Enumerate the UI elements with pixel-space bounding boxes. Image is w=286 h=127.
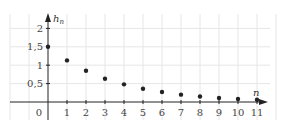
data-point <box>84 69 88 73</box>
x-axis-label: n <box>253 87 259 98</box>
x-tick-label: 7 <box>178 107 184 118</box>
data-point <box>65 58 69 62</box>
y-tick-label: 1,5 <box>27 41 43 52</box>
data-point <box>141 87 145 91</box>
x-tick-label: 4 <box>121 107 127 118</box>
x-tick-label: 6 <box>159 107 165 118</box>
y-axis-label: hn <box>53 13 64 26</box>
origin-label: 0 <box>36 107 42 118</box>
x-tick-label: 2 <box>83 107 89 118</box>
x-tick-label: 3 <box>102 107 108 118</box>
data-point <box>122 82 126 86</box>
y-axis-arrow-icon <box>45 13 51 22</box>
y-tick-label: 0,5 <box>27 78 43 89</box>
x-axis-arrow-icon <box>259 99 268 105</box>
x-tick-label: 8 <box>197 107 203 118</box>
chart-canvas: 12345678910110,511,520nhn <box>0 0 286 127</box>
data-point <box>217 96 221 100</box>
data-point <box>179 92 183 96</box>
data-point <box>255 98 259 102</box>
data-point <box>198 94 202 98</box>
data-point <box>236 97 240 101</box>
y-tick-label: 1 <box>37 60 43 71</box>
data-point <box>160 90 164 94</box>
x-tick-label: 11 <box>251 107 264 118</box>
data-point <box>46 45 50 49</box>
x-tick-label: 5 <box>140 107 146 118</box>
x-tick-label: 1 <box>64 107 70 118</box>
sequence-chart: 12345678910110,511,520nhn n h_n <box>0 0 286 127</box>
x-tick-label: 10 <box>232 107 245 118</box>
x-tick-label: 9 <box>216 107 222 118</box>
data-point <box>103 77 107 81</box>
y-tick-label: 2 <box>37 23 43 34</box>
